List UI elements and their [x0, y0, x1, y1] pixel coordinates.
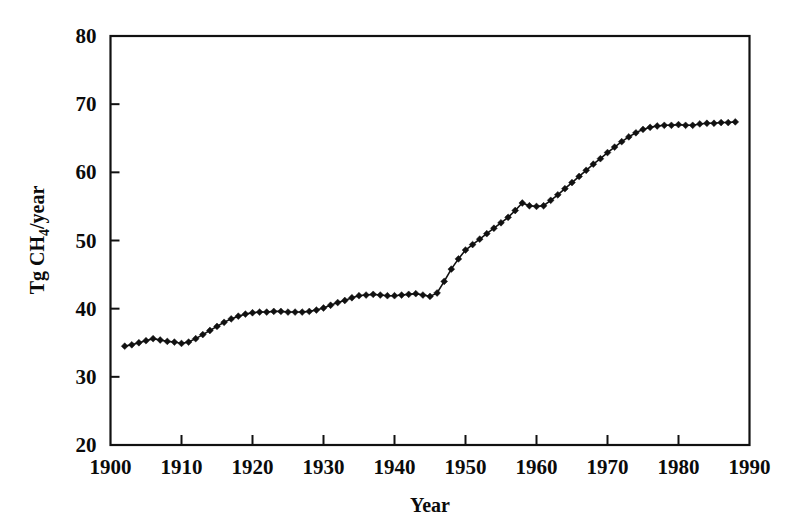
x-tick-label: 1990 [729, 455, 771, 479]
x-tick-label: 1920 [232, 455, 274, 479]
x-tick-label: 1900 [90, 455, 132, 479]
y-tick-label: 70 [76, 92, 97, 116]
x-tick-label: 1930 [303, 455, 345, 479]
figure-background [0, 0, 807, 532]
y-tick-label: 60 [76, 160, 97, 184]
y-axis-title-subscript: 4 [37, 229, 52, 236]
x-tick-label: 1980 [658, 455, 700, 479]
y-tick-label: 20 [76, 433, 97, 457]
y-tick-label: 40 [76, 297, 97, 321]
y-tick-label: 30 [76, 365, 97, 389]
y-tick-label: 80 [76, 24, 97, 48]
y-axis-title-suffix: /year [26, 186, 49, 230]
x-tick-label: 1970 [587, 455, 629, 479]
x-axis-title: Year [410, 494, 450, 516]
x-tick-label: 1960 [516, 455, 558, 479]
y-axis-title-prefix: Tg CH [26, 236, 49, 295]
y-tick-label: 50 [76, 229, 97, 253]
methane-emissions-line-chart: 20304050607080 1900191019201930194019501… [0, 0, 807, 532]
chart-figure: 20304050607080 1900191019201930194019501… [0, 0, 807, 532]
x-tick-label: 1940 [374, 455, 416, 479]
x-tick-label: 1910 [161, 455, 203, 479]
x-tick-label: 1950 [445, 455, 487, 479]
